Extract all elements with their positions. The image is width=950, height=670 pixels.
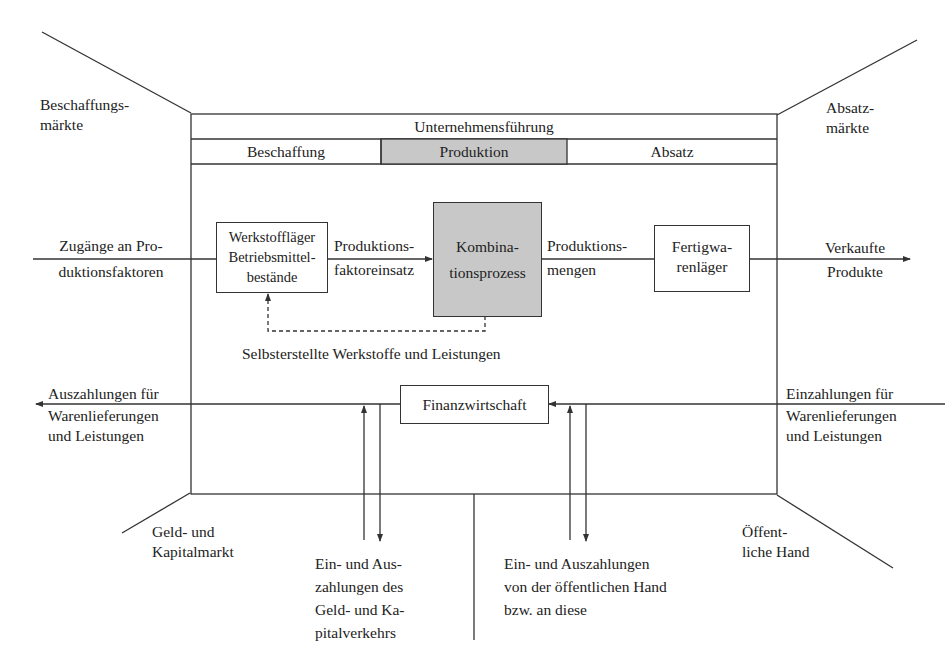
label-sold-products: Verkaufte Produkte (800, 238, 910, 282)
label-line: Ein- und Aus- (315, 552, 405, 575)
label-line: Zugänge an Pro- (36, 236, 186, 256)
finished-goods-box: Fertigwa- renläger (654, 225, 750, 292)
label-line: Produktions- (547, 236, 627, 256)
label-line: Warenlieferungen (786, 406, 897, 426)
label-line: Werkstoffläger (217, 227, 327, 247)
stock-box: Werkstoffläger Betriebsmittel- bestände (216, 222, 328, 293)
label-line: und Leistungen (48, 426, 159, 446)
label-outgoing-payments: Auszahlungen für Warenlieferungen und Le… (48, 384, 159, 446)
label-line: Verkaufte (800, 238, 910, 258)
label-line: Ein- und Auszahlungen (504, 552, 667, 575)
label-line: Auszahlungen für (48, 384, 159, 404)
label-incoming-payments: Einzahlungen für Warenlieferungen und Le… (786, 384, 897, 446)
label-line: liche Hand (742, 542, 810, 562)
label-line: bzw. an diese (504, 598, 667, 621)
label-line: duktionsfaktoren (36, 262, 186, 282)
label-line: pitalverkehrs (315, 621, 405, 644)
header-cell-produktion: Produktion (381, 142, 567, 162)
label-public-sector: Öffent- liche Hand (742, 522, 810, 562)
diagram-lines (0, 0, 950, 670)
label-line: Warenlieferungen (48, 406, 159, 426)
label-line: Absatz- (826, 98, 874, 118)
label-line: tionsprozess (434, 263, 541, 283)
label-line: Betriebsmittel- (217, 247, 327, 267)
label-line: Beschaffungs- (40, 95, 129, 115)
label-money-capital-market: Geld- und Kapitalmarkt (152, 522, 234, 562)
label-sales-markets: Absatz- märkte (826, 98, 874, 138)
label-line: faktoreinsatz (334, 260, 414, 280)
finance-box: Finanzwirtschaft (400, 385, 549, 424)
label-input-factors: Zugänge an Pro- duktionsfaktoren (36, 236, 186, 282)
label-line: Finanzwirtschaft (401, 395, 548, 415)
label-line: zahlungen des (315, 575, 405, 598)
header-cell-absatz: Absatz (567, 142, 777, 162)
label-line: mengen (547, 260, 627, 280)
label-line: und Leistungen (786, 426, 897, 446)
label-line: Fertigwa- (655, 237, 749, 257)
label-line: Produktions- (334, 236, 414, 256)
label-line: Kapitalmarkt (152, 542, 234, 562)
label-self-produced: Selbsterstellte Werkstoffe und Leistunge… (242, 344, 501, 364)
label-factor-input: Produktions- faktoreinsatz (334, 236, 414, 280)
label-procurement-markets: Beschaffungs- märkte (40, 95, 129, 135)
label-line: Öffent- (742, 522, 810, 542)
header-management: Unternehmensführung (191, 117, 777, 137)
combination-process-box: Kombina- tionsprozess (433, 202, 542, 317)
label-line: märkte (826, 118, 874, 138)
label-line: Kombina- (434, 237, 541, 257)
label-line: Produkte (800, 262, 910, 282)
label-line: Geld- und Ka- (315, 598, 405, 621)
label-line: bestände (217, 267, 327, 287)
label-output-quantities: Produktions- mengen (547, 236, 627, 280)
label-capital-payments: Ein- und Aus- zahlungen des Geld- und Ka… (315, 552, 405, 644)
label-line: renläger (655, 257, 749, 277)
header-cell-beschaffung: Beschaffung (191, 142, 381, 162)
label-line: von der öffentlichen Hand (504, 575, 667, 598)
label-line: märkte (40, 115, 129, 135)
label-line: Einzahlungen für (786, 384, 897, 404)
label-public-payments: Ein- und Auszahlungen von der öffentlich… (504, 552, 667, 621)
label-line: Geld- und (152, 522, 234, 542)
